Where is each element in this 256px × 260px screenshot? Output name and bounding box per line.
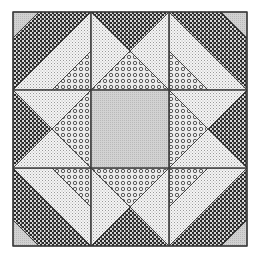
center-square-patch [91, 90, 169, 168]
quilt-block [0, 0, 256, 260]
quilt-figure: Quilt block with patterned fabrics [0, 0, 256, 260]
quilt-regions [13, 12, 247, 246]
